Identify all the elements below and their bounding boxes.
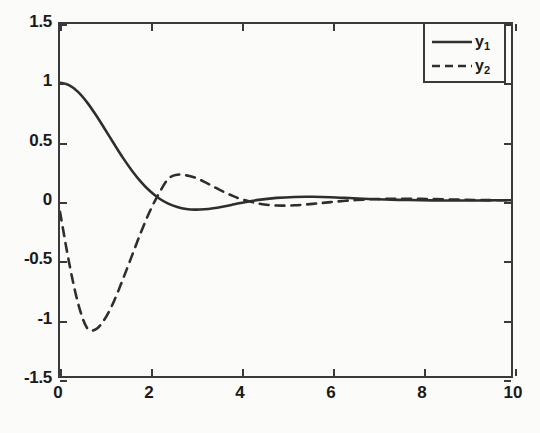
- y-tick-label: -1.5: [24, 368, 52, 388]
- x-tick-label: 6: [326, 383, 335, 403]
- x-tick-label: 2: [144, 383, 153, 403]
- y-tick-mark: [60, 143, 67, 145]
- series-y1-line: [60, 83, 511, 210]
- x-tick-mark: [333, 24, 335, 31]
- legend-label-y2: y2: [475, 58, 490, 74]
- x-tick-mark: [60, 24, 62, 31]
- legend-label-y2-base: y: [475, 57, 484, 74]
- y-tick-label: -0.5: [24, 249, 52, 269]
- y-tick-mark: [60, 321, 67, 323]
- y-tick-label: -1: [37, 309, 52, 329]
- y-tick-mark: [60, 380, 67, 382]
- x-axis-tick-labels: 0246810: [58, 383, 513, 409]
- x-tick-mark: [151, 24, 153, 31]
- x-tick-label: 0: [53, 383, 62, 403]
- x-tick-label: 10: [504, 383, 523, 403]
- y-tick-mark: [504, 143, 511, 145]
- y-tick-label: 1: [43, 71, 52, 91]
- legend-label-y1-base: y: [475, 33, 484, 50]
- x-tick-mark: [60, 369, 62, 376]
- x-tick-mark: [242, 24, 244, 31]
- y-tick-label: 1.5: [29, 12, 52, 32]
- y-tick-label: 0: [43, 190, 52, 210]
- x-tick-mark: [515, 24, 517, 31]
- legend-label-y1-sub: 1: [484, 40, 490, 52]
- y-axis-tick-labels: 1.510.50-0.5-1-1.5: [0, 22, 52, 378]
- y-tick-mark: [504, 380, 511, 382]
- x-tick-mark: [151, 369, 153, 376]
- legend-line-sample-dashed: [431, 61, 473, 71]
- legend-label-y2-sub: 2: [484, 64, 490, 76]
- x-tick-mark: [424, 369, 426, 376]
- x-tick-mark: [515, 369, 517, 376]
- x-tick-label: 8: [417, 383, 426, 403]
- y-tick-mark: [504, 202, 511, 204]
- y-tick-mark: [60, 261, 67, 263]
- legend-line-sample-solid: [431, 37, 473, 47]
- y-tick-mark: [504, 83, 511, 85]
- x-tick-mark: [242, 369, 244, 376]
- y-tick-mark: [60, 83, 67, 85]
- legend-entry-y1: y1: [431, 30, 499, 54]
- y-tick-mark: [60, 202, 67, 204]
- x-tick-mark: [333, 369, 335, 376]
- y-tick-mark: [504, 321, 511, 323]
- chart-figure: 1.510.50-0.5-1-1.5 0246810 y1 y2: [0, 0, 540, 433]
- legend: y1 y2: [423, 22, 506, 83]
- legend-label-y1: y1: [475, 34, 490, 50]
- y-tick-label: 0.5: [29, 131, 52, 151]
- legend-entry-y2: y2: [431, 54, 499, 78]
- x-tick-label: 4: [235, 383, 244, 403]
- y-tick-mark: [504, 261, 511, 263]
